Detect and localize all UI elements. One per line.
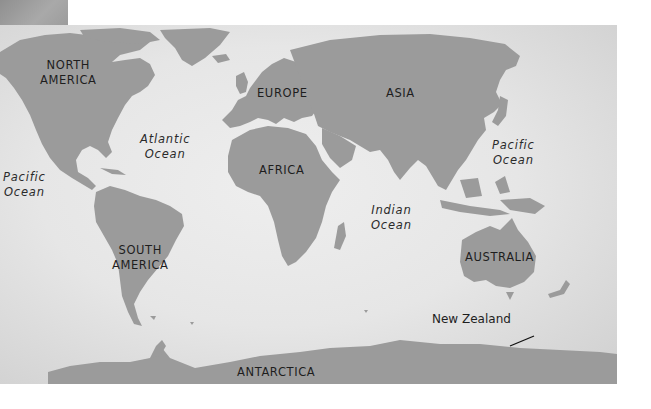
africa-shape [228,126,340,266]
label-asia: ASIA [386,86,415,101]
label-pacific-ocean-west: PacificOcean [3,170,46,200]
caribbean-shape [100,168,126,175]
tasmania-shape [506,292,514,300]
label-africa: AFRICA [259,163,304,178]
label-pacific-ocean-east: PacificOcean [492,138,535,168]
label-atlantic-ocean: AtlanticOcean [140,132,190,162]
antarctica-shape [48,340,617,384]
label-indian-ocean: IndianOcean [371,203,412,233]
label-australia: AUSTRALIA [465,250,534,265]
southeast-asia-islands-shape [440,176,545,216]
label-europe: EUROPE [257,86,308,101]
new-zealand-callout-line [510,336,534,346]
madagascar-shape [334,222,346,250]
north-america-shape [0,33,155,190]
label-north-america: NORTHAMERICA [40,58,97,88]
label-antarctica: ANTARCTICA [237,365,315,380]
label-new-zealand: New Zealand [432,312,511,327]
new-zealand-shape [548,280,570,298]
corner-photo-patch [0,0,68,26]
british-isles-shape [236,72,248,94]
small-islands-shape [150,310,368,325]
label-south-america: SOUTHAMERICA [112,243,169,273]
iceland-shape [212,54,230,63]
